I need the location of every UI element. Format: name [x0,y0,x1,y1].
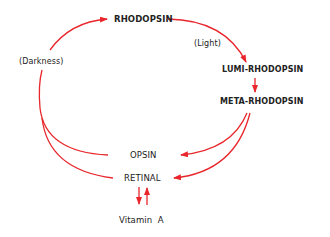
curve-retinal-to-darkness [42,118,113,178]
arrow-meta-to-opsin [181,113,247,155]
annotation-light: (Light) [194,39,221,49]
arrow-meta-to-retinal [174,113,250,178]
node-vitamin-a: Vitamin A [119,215,164,225]
node-rhodopsin: RHODOPSIN [114,14,173,24]
node-lumi-rhodopsin: LUMI-RHODOPSIN [222,65,303,75]
node-retinal: RETINAL [124,173,161,183]
arrows-layer [0,0,330,237]
annotation-darkness: (Darkness) [19,57,64,67]
arrow-darkness-to-rhodopsin [50,19,107,50]
node-meta-rhodopsin: META-RHODOPSIN [220,97,304,107]
rhodopsin-cycle-diagram: RHODOPSIN (Light) (Darkness) LUMI-RHODOP… [0,0,330,237]
node-opsin: OPSIN [130,150,157,160]
